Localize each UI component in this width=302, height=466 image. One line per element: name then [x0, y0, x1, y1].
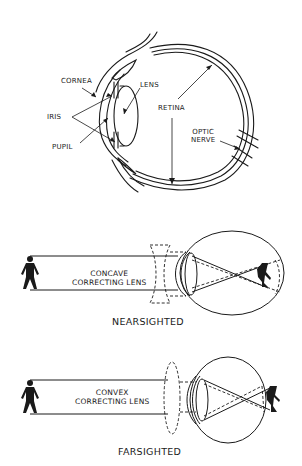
eyeball — [190, 357, 266, 443]
label-optic-nerve-line1: OPTIC — [191, 128, 215, 136]
convex-lens-label: CONVEX CORRECTING LENS — [75, 389, 149, 406]
person-icon — [21, 380, 39, 413]
retina-line — [136, 52, 244, 181]
lens-shape — [114, 86, 138, 146]
eye-anatomy-diagram — [0, 0, 302, 220]
label-optic-nerve-line2: NERVE — [191, 136, 215, 144]
sclera-inner — [133, 49, 248, 185]
concave-lens — [150, 245, 170, 303]
cornea-shape — [99, 70, 126, 166]
inverted-image-icon — [266, 386, 280, 412]
convex-lens — [164, 362, 180, 434]
concave-lens-label: CONCAVE CORRECTING LENS — [72, 270, 146, 287]
label-iris: IRIS — [47, 113, 61, 121]
sclera-outer — [130, 44, 254, 190]
nearsighted-diagram — [0, 230, 302, 350]
label-pupil: PUPIL — [52, 143, 73, 151]
concave-lens-label-line2: CORRECTING LENS — [72, 279, 146, 288]
label-cornea: CORNEA — [61, 77, 92, 85]
person-icon — [21, 256, 39, 289]
farsighted-diagram — [0, 350, 302, 460]
label-lens: LENS — [140, 81, 159, 89]
farsighted-caption: FARSIGHTED — [118, 446, 181, 457]
label-optic-nerve: OPTIC NERVE — [191, 128, 215, 144]
label-retina: RETINA — [158, 104, 185, 112]
nearsighted-caption: NEARSIGHTED — [112, 316, 184, 327]
convex-lens-label-line2: CORRECTING LENS — [75, 398, 149, 407]
